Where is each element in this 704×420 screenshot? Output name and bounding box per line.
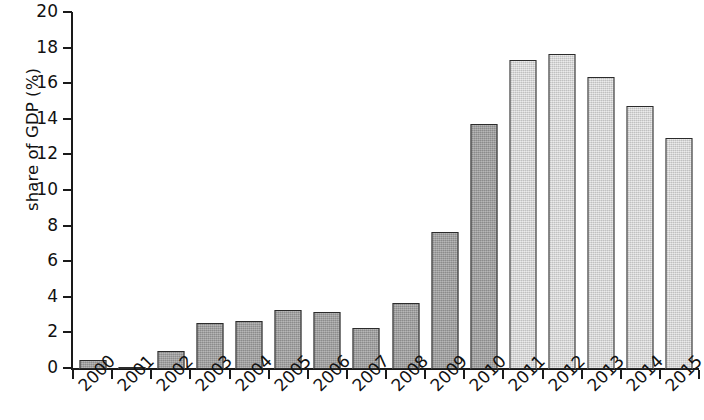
x-axis-tick [268,370,270,379]
x-axis-tick [659,370,661,379]
bar-slot [347,12,386,369]
y-axis-tick [63,153,72,155]
x-axis-tick [698,370,700,379]
x-axis-tick [307,370,309,379]
y-axis-tick [63,82,72,84]
x-axis-tick [229,370,231,379]
x-axis-tick [346,370,348,379]
x-axis-tick [189,370,191,379]
bar-2015[interactable] [666,138,693,369]
y-axis-tick [63,225,72,227]
x-axis-tick [150,370,152,379]
bar-2011[interactable] [509,60,536,369]
bar-slot [582,12,621,369]
bar-slot [660,12,699,369]
y-axis-tick [63,189,72,191]
x-axis-tick [502,370,504,379]
y-axis-tick-label: 6 [0,252,58,269]
bar-2010[interactable] [470,124,497,369]
bar-slot [151,12,190,369]
x-axis-tick [620,370,622,379]
bar-slot [386,12,425,369]
x-axis-tick [463,370,465,379]
y-axis-tick-label: 20 [0,3,58,20]
bar-2012[interactable] [549,54,576,369]
y-axis-tick [63,47,72,49]
y-axis-tick-label: 10 [0,181,58,198]
y-axis-tick-label: 4 [0,288,58,305]
y-axis-tick-label: 8 [0,217,58,234]
x-axis-tick [385,370,387,379]
bar-slot [464,12,503,369]
bar-slot [269,12,308,369]
x-axis-tick [542,370,544,379]
bar-slot [308,12,347,369]
bar-2014[interactable] [627,106,654,369]
bar-slot [73,12,112,369]
y-axis-tick-label: 12 [0,145,58,162]
y-axis-tick [63,118,72,120]
y-axis-tick [63,331,72,333]
y-axis-tick-label: 16 [0,74,58,91]
y-axis-tick [63,260,72,262]
y-axis-tick [63,296,72,298]
bar-slot [543,12,582,369]
bar-2009[interactable] [431,232,458,369]
bar-chart: share of GDP (%) 02468101214161820 20002… [0,0,704,420]
plot-area [73,12,699,369]
y-axis-tick-label: 0 [0,359,58,376]
y-axis-tick-label: 14 [0,110,58,127]
x-axis-tick [111,370,113,379]
bar-slot [621,12,660,369]
bar-slot [112,12,151,369]
x-axis-tick [424,370,426,379]
bar-2013[interactable] [588,77,615,369]
bar-slot [425,12,464,369]
y-axis-tick [63,11,72,13]
y-axis-tick-label: 2 [0,323,58,340]
x-axis-tick [581,370,583,379]
bar-slot [230,12,269,369]
y-axis-tick [63,367,72,369]
x-axis-tick [72,370,74,379]
y-axis-tick-label: 18 [0,39,58,56]
bar-slot [503,12,542,369]
bar-slot [190,12,229,369]
